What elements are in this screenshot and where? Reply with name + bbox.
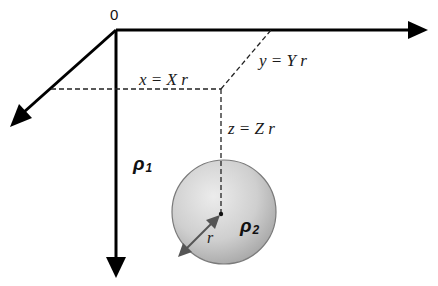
z-axis-arrow (106, 30, 126, 278)
radius-label: r (207, 230, 213, 246)
x-coordinate-label: x = X r (139, 71, 188, 88)
y-coordinate-label: y = Y r (259, 52, 307, 69)
x-axis-arrow (10, 30, 116, 127)
rho1-subscript: 1 (146, 161, 153, 175)
y-axis-arrow (116, 21, 428, 39)
rho2-label: ρ2 (240, 216, 259, 236)
rho2-symbol: ρ (240, 215, 252, 236)
rho2-subscript: 2 (253, 223, 260, 237)
rho1-symbol: ρ (133, 153, 145, 174)
z-coordinate-label: z = Z r (228, 120, 275, 137)
diagram-canvas: 0 x = X r y = Y r z = Z r ρ1 ρ2 r (0, 0, 438, 286)
rho1-label: ρ1 (133, 154, 152, 174)
diagram-svg (0, 0, 438, 286)
origin-label: 0 (110, 7, 118, 22)
